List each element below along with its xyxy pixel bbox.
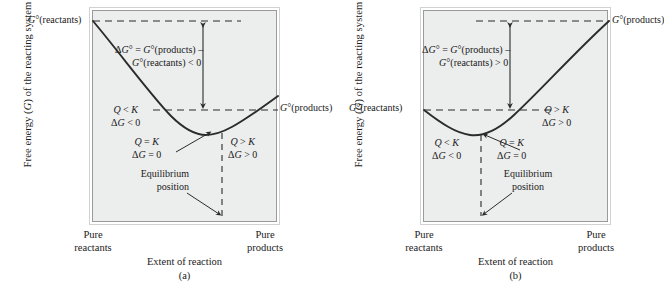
equilibrium-position-line2-b: position — [486, 181, 570, 194]
region-q-greater-k-line1-b: Q > K — [542, 104, 571, 117]
region-q-less-k-line1-a: Q < K — [111, 104, 140, 117]
plot-area-b: ΔG° = G°(products) – G°(reactants) > 0 Q… — [423, 10, 608, 222]
delta-g-standard-line2: G°(reactants) < 0 — [115, 56, 203, 69]
region-q-greater-k-a: Q > K ΔG > 0 — [228, 136, 257, 161]
g-reactants-label-a: G°(reactants) — [28, 14, 81, 25]
equilibrium-position-line1-b: Equilibrium — [486, 168, 570, 181]
region-q-equals-k-line2-b: ΔG = 0 — [497, 150, 526, 163]
x-axis-title-b: Extent of reaction — [423, 256, 608, 267]
region-q-greater-k-b: Q > K ΔG > 0 — [542, 104, 571, 129]
region-q-less-k-b: Q < K ΔG < 0 — [432, 137, 461, 162]
x-axis-right-line2-b: products — [559, 241, 633, 254]
x-axis-right-line1-b: Pure — [559, 228, 633, 241]
region-q-equals-k-b: Q = K ΔG = 0 — [497, 137, 526, 162]
x-axis-left-label-a: Pure reactants — [56, 228, 130, 254]
equilibrium-position-label-b: Equilibrium position — [486, 168, 570, 193]
x-axis-right-label-a: Pure products — [228, 228, 302, 254]
x-axis-left-line1-b: Pure — [387, 228, 461, 241]
g-reactants-label-b: G°(reactants) — [349, 102, 402, 113]
x-axis-left-line2-b: reactants — [387, 241, 461, 254]
region-q-less-k-line2-b: ΔG < 0 — [432, 150, 461, 163]
free-energy-curve-b — [424, 21, 609, 135]
x-axis-right-label-b: Pure products — [559, 228, 633, 254]
y-axis-label-a: Free energy (G) of the reacting system — [22, 0, 33, 175]
equilibrium-position-line2-a: position — [111, 181, 189, 194]
y-axis-label-b: Free energy (G) of the reacting system — [353, 0, 364, 175]
region-q-greater-k-line1-a: Q > K — [228, 136, 257, 149]
panel-a: Free energy (G) of the reacting system — [0, 0, 331, 283]
delta-g-standard-label-b: ΔG° = G°(products) – G°(reactants) > 0 — [422, 43, 510, 69]
delta-g-standard-line2: G°(reactants) > 0 — [422, 56, 510, 69]
g-products-label-a: G°(products) — [280, 102, 332, 113]
delta-g-standard-line1: ΔG° = G°(products) – — [115, 44, 203, 55]
equilibrium-position-line1-a: Equilibrium — [111, 168, 189, 181]
region-q-greater-k-line2-a: ΔG > 0 — [228, 149, 257, 162]
x-axis-right-line2-a: products — [228, 241, 302, 254]
region-q-equals-k-a: Q = K ΔG = 0 — [132, 136, 161, 161]
equilibrium-position-pointer-a — [187, 193, 219, 214]
region-q-less-k-a: Q < K ΔG < 0 — [111, 104, 140, 129]
x-axis-left-label-b: Pure reactants — [387, 228, 461, 254]
g-products-label-b: G°(products) — [612, 14, 664, 25]
delta-g-standard-line1: ΔG° = G°(products) – — [422, 44, 510, 55]
equilibrium-pointer-a — [176, 133, 209, 152]
equilibrium-position-label-a: Equilibrium position — [111, 168, 189, 193]
panel-caption-a: (a) — [92, 270, 277, 281]
equilibrium-position-pointer-b — [484, 193, 512, 214]
plot-area-a: ΔG° = G°(products) – G°(reactants) < 0 Q… — [92, 10, 277, 222]
region-q-less-k-line1-b: Q < K — [432, 137, 461, 150]
region-q-equals-k-line1-a: Q = K — [132, 136, 161, 149]
x-axis-left-line2-a: reactants — [56, 241, 130, 254]
region-q-equals-k-line2-a: ΔG = 0 — [132, 149, 161, 162]
delta-g-standard-label-a: ΔG° = G°(products) – G°(reactants) < 0 — [115, 43, 203, 69]
panel-caption-b: (b) — [423, 270, 608, 281]
x-axis-right-line1-a: Pure — [228, 228, 302, 241]
region-q-equals-k-line1-b: Q = K — [497, 137, 526, 150]
x-axis-left-line1-a: Pure — [56, 228, 130, 241]
x-axis-title-a: Extent of reaction — [92, 256, 277, 267]
region-q-less-k-line2-a: ΔG < 0 — [111, 117, 140, 130]
region-q-greater-k-line2-b: ΔG > 0 — [542, 117, 571, 130]
panel-b: Free energy (G) of the reacting system — [331, 0, 662, 283]
